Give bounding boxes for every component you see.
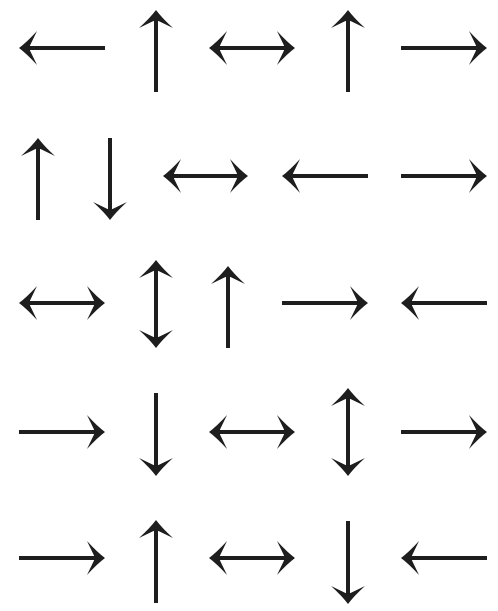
arrow-up-down-icon xyxy=(139,260,173,348)
arrow-up-icon xyxy=(21,138,55,220)
arrow-right-icon xyxy=(19,541,105,575)
arrow-right-icon xyxy=(401,159,487,193)
arrow-left-icon xyxy=(19,31,105,65)
arrow-up-icon xyxy=(331,10,365,92)
arrow-left-right-icon xyxy=(163,159,248,193)
arrow-right-icon xyxy=(19,415,105,449)
arrow-down-icon xyxy=(93,138,127,220)
arrow-left-right-icon xyxy=(209,415,295,449)
arrow-grid xyxy=(0,0,498,611)
arrow-left-icon xyxy=(401,541,487,575)
arrow-left-icon xyxy=(282,159,368,193)
arrow-right-icon xyxy=(401,31,487,65)
arrow-left-icon xyxy=(401,286,487,320)
arrow-down-icon xyxy=(139,393,173,476)
arrow-left-right-icon xyxy=(209,541,295,575)
arrow-up-icon xyxy=(139,520,173,603)
arrow-up-icon xyxy=(139,10,173,92)
arrow-up-down-icon xyxy=(331,388,365,476)
arrow-right-icon xyxy=(282,286,368,320)
arrow-left-right-icon xyxy=(19,286,105,320)
arrow-left-right-icon xyxy=(209,31,295,65)
arrow-canvas xyxy=(0,0,498,611)
arrow-up-icon xyxy=(211,266,245,348)
arrow-right-icon xyxy=(401,415,487,449)
arrow-down-icon xyxy=(331,521,365,604)
